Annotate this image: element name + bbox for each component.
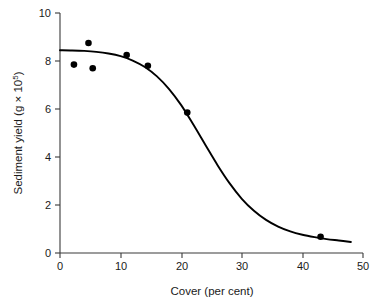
data-point xyxy=(71,61,78,68)
y-tick-label-2: 2 xyxy=(45,199,51,211)
y-axis-title: Sediment yield (g × 105) xyxy=(11,71,24,194)
x-tick-label-30: 30 xyxy=(236,260,248,272)
svg-text:Sediment yield (g × 105): Sediment yield (g × 105) xyxy=(11,71,24,194)
y-tick-label-0: 0 xyxy=(45,247,51,259)
y-tick-label-8: 8 xyxy=(45,55,51,67)
x-tick-label-20: 20 xyxy=(176,260,188,272)
x-tick-label-50: 50 xyxy=(357,260,369,272)
y-axis-title-base: Sediment yield (g × 10 xyxy=(12,80,24,195)
x-tick-label-10: 10 xyxy=(115,260,127,272)
y-axis-title-close: ) xyxy=(12,71,24,75)
chart-figure: 10 8 6 4 2 0 0 10 20 30 40 50 Cover (per… xyxy=(0,0,380,305)
x-axis-title: Cover (per cent) xyxy=(170,285,253,297)
data-point xyxy=(145,63,152,70)
data-point xyxy=(85,40,92,47)
data-point xyxy=(317,233,324,240)
x-tick-label-0: 0 xyxy=(57,260,63,272)
x-tick-label-40: 40 xyxy=(297,260,309,272)
data-point xyxy=(123,52,130,59)
y-tick-label-6: 6 xyxy=(45,103,51,115)
y-tick-label-10: 10 xyxy=(39,7,51,19)
y-tick-label-4: 4 xyxy=(45,151,51,163)
sediment-yield-vs-cover-chart: 10 8 6 4 2 0 0 10 20 30 40 50 Cover (per… xyxy=(0,0,380,305)
data-point xyxy=(184,109,191,116)
data-point xyxy=(89,65,96,72)
